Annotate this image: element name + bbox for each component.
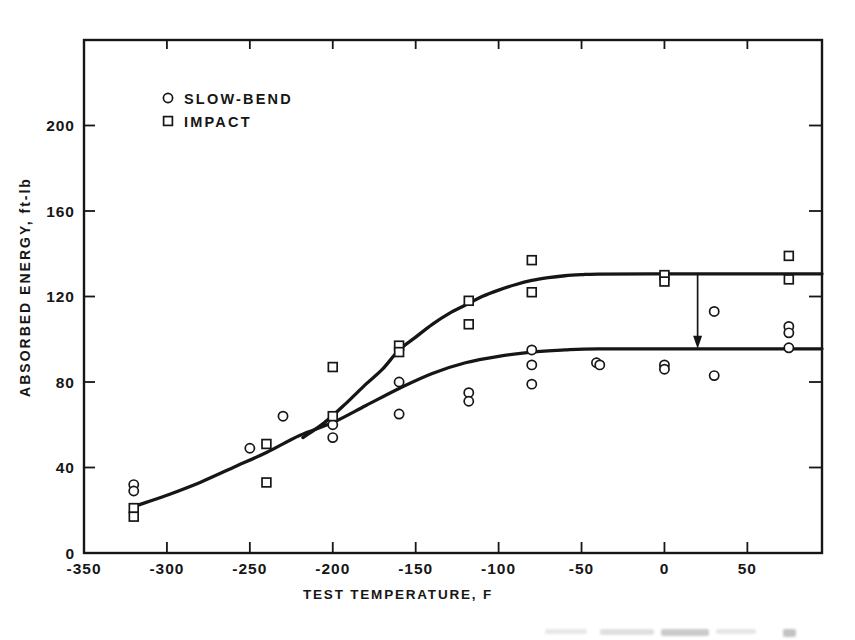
slow-bend-point [395, 409, 404, 418]
scanned-chart-figure: -350-300-250-200-150-100-500500408012016… [0, 0, 855, 640]
energy-vs-temperature-chart: -350-300-250-200-150-100-500500408012016… [0, 0, 855, 640]
slow-bend-point [328, 420, 337, 429]
legend-circle-icon [163, 93, 172, 102]
slow-bend-curve [139, 349, 822, 505]
slow-bend-point [129, 486, 138, 495]
legend-square-icon [164, 117, 173, 126]
slow-bend-point [395, 377, 404, 386]
x-tick-label: 0 [660, 560, 670, 577]
slow-bend-point [464, 397, 473, 406]
x-tick-label: -350 [66, 560, 101, 577]
x-tick-label: 50 [738, 560, 757, 577]
slow-bend-point [710, 307, 719, 316]
y-tick-label: 160 [46, 203, 75, 220]
impact-point [660, 277, 669, 286]
impact-point [784, 275, 793, 284]
x-axis-title: TEST TEMPERATURE, F [303, 587, 493, 602]
x-tick-label: -150 [398, 560, 433, 577]
slow-bend-series [129, 307, 793, 496]
x-tick-label: -200 [315, 560, 350, 577]
legend: SLOW-BENDIMPACT [163, 91, 293, 130]
impact-point [262, 478, 271, 487]
impact-point [464, 296, 473, 305]
slow-bend-point [595, 360, 604, 369]
legend-label: SLOW-BEND [184, 91, 293, 107]
y-tick-label: 200 [46, 117, 75, 134]
cropped-caption-fragment [0, 629, 855, 640]
y-tick-label: 0 [65, 545, 75, 562]
slow-bend-point [710, 371, 719, 380]
y-axis-title: ABSORBED ENERGY, ft-lb [17, 177, 33, 397]
slow-bend-point [278, 412, 287, 421]
impact-point [129, 512, 138, 521]
impact-series [129, 251, 793, 521]
arrow-head-icon [693, 336, 702, 349]
slow-bend-point [784, 343, 793, 352]
x-tick-label: -250 [232, 560, 267, 577]
impact-point [784, 251, 793, 260]
y-tick-label: 80 [56, 374, 75, 391]
impact-point [262, 440, 271, 449]
y-tick-label: 40 [56, 459, 75, 476]
x-tick-label: -300 [149, 560, 184, 577]
y-axis: 04080120160200 [46, 117, 822, 562]
impact-point [395, 348, 404, 357]
slow-bend-point [245, 444, 254, 453]
impact-point [129, 504, 138, 513]
x-tick-label: -50 [569, 560, 594, 577]
y-tick-label: 120 [46, 288, 75, 305]
impact-point [328, 363, 337, 372]
slow-bend-point [784, 328, 793, 337]
impact-point [464, 320, 473, 329]
slow-bend-point [527, 345, 536, 354]
impact-point [527, 256, 536, 265]
impact-point [328, 412, 337, 421]
impact-curve [303, 274, 822, 438]
slow-bend-point [527, 380, 536, 389]
slow-bend-point [660, 365, 669, 374]
impact-point [527, 288, 536, 297]
x-tick-label: -100 [481, 560, 516, 577]
arrow-annotation [693, 274, 702, 349]
slow-bend-point [527, 360, 536, 369]
slow-bend-point [328, 433, 337, 442]
legend-label: IMPACT [184, 114, 252, 130]
